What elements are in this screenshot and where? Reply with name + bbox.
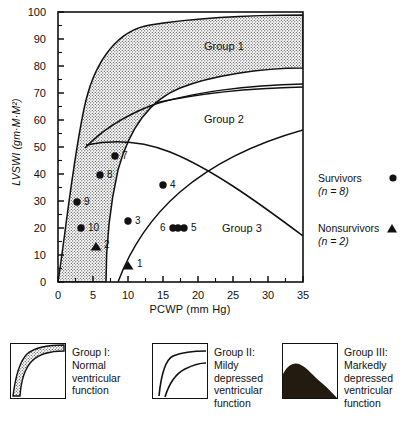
panel-group-ii-title: Group II:	[214, 346, 284, 359]
legend-survivors-label: Survivors	[318, 172, 362, 185]
point-label-5: 5	[191, 222, 197, 233]
data-point-3	[124, 217, 131, 224]
region-label-group1: Group 1	[204, 40, 244, 52]
panel-group-i-description: Normal ventricular function	[72, 359, 144, 397]
region-label-group2: Group 2	[204, 113, 244, 125]
normal-function-curve-icon	[11, 344, 65, 398]
panel-group-i-icon	[10, 343, 66, 399]
panel-group-i-title: Group I:	[72, 346, 140, 359]
point-label-6: 6	[160, 222, 166, 233]
legend-nonsurvivors-count: (n = 2)	[318, 235, 349, 248]
legend-triangle-marker-icon	[386, 222, 400, 236]
group1-band	[58, 15, 303, 282]
panel-group-iii-description: Markedly depressed ventricular function	[344, 359, 409, 409]
panel-group-iii-title: Group III:	[344, 346, 409, 359]
markedly-depressed-fill-icon	[283, 344, 337, 398]
legend-circle-marker-icon	[388, 173, 402, 187]
point-label-4: 4	[170, 179, 176, 190]
panel-group-iii-icon	[282, 343, 338, 399]
point-label-8: 8	[107, 169, 113, 180]
point-label-9: 9	[84, 196, 90, 207]
panel-group-ii-description: Mildy depressed ventricular function	[214, 359, 288, 409]
point-label-1: 1	[137, 258, 143, 269]
data-point-4	[159, 181, 166, 188]
point-label-3: 3	[135, 215, 141, 226]
data-point-1	[123, 261, 134, 270]
point-label-2: 2	[104, 239, 110, 250]
data-point-9	[73, 198, 80, 205]
legend-nonsurvivors-label: Nonsurvivors	[318, 222, 379, 235]
group3-upper-curve	[118, 130, 303, 282]
panel-group-ii-icon	[152, 343, 208, 399]
figure-root: LVSWI (gm·M·M²) PCWP (mm Hg) 100 90 80 7…	[0, 0, 409, 424]
data-point-8	[96, 171, 103, 178]
data-point-7	[111, 152, 118, 159]
data-point-6	[169, 224, 176, 231]
data-point-10	[77, 224, 84, 231]
point-label-10: 10	[88, 222, 99, 233]
legend-survivors-count: (n = 8)	[318, 185, 349, 198]
region-label-group3: Group 3	[222, 222, 262, 234]
mildly-depressed-curves-icon	[153, 344, 207, 398]
point-label-7: 7	[122, 150, 128, 161]
